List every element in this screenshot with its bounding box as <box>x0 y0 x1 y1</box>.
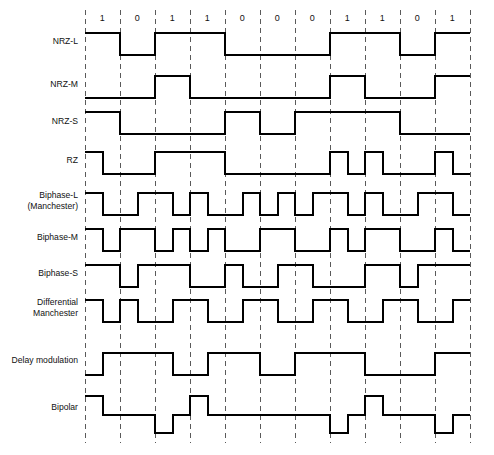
bit-sequence-labels: 10110001101 <box>100 13 455 23</box>
bit-value-label: 1 <box>205 13 210 23</box>
bit-value-label: 0 <box>135 13 140 23</box>
grid-lines-group <box>86 10 471 443</box>
bit-value-label: 1 <box>170 13 175 23</box>
row-label-rz: RZ <box>67 155 78 165</box>
bit-value-label: 1 <box>450 13 455 23</box>
bit-value-label: 1 <box>100 13 105 23</box>
waveform-nrz-m <box>85 76 470 98</box>
row-label-biphase-s: Biphase-S <box>38 268 78 278</box>
row-label-nrz-m: NRZ-M <box>50 79 78 89</box>
waveform-rz <box>85 152 470 174</box>
waveform-bipolar <box>85 396 470 433</box>
row-label-nrz-l: NRZ-L <box>53 36 79 46</box>
waveform-biphase-s <box>85 265 470 287</box>
bit-value-label: 0 <box>415 13 420 23</box>
row-label-delay-modulation: Delay modulation <box>12 355 79 365</box>
waveform-delay-modulation <box>85 353 470 375</box>
bit-value-label: 1 <box>345 13 350 23</box>
row-label-biphase-l-manchester: Biphase-L <box>39 190 78 200</box>
waveform-nrz-l <box>85 33 470 55</box>
waveforms-group <box>85 33 470 433</box>
row-label-differential-manchester: Manchester <box>33 308 78 318</box>
waveform-differential-manchester <box>85 300 470 322</box>
bit-value-label: 1 <box>380 13 385 23</box>
row-label-bipolar: Bipolar <box>51 402 78 412</box>
waveform-biphase-l-manchester <box>85 193 470 215</box>
encoding-waveform-chart: 10110001101 NRZ-LNRZ-MNRZ-SRZBiphase-L(M… <box>0 0 494 455</box>
bit-value-label: 0 <box>275 13 280 23</box>
row-label-nrz-s: NRZ-S <box>52 116 79 126</box>
waveform-biphase-m <box>85 229 470 251</box>
row-label-biphase-l-manchester: (Manchester) <box>27 201 78 211</box>
bit-value-label: 0 <box>310 13 315 23</box>
row-label-biphase-m: Biphase-M <box>37 232 78 242</box>
waveform-nrz-s <box>85 112 470 134</box>
row-label-differential-manchester: Differential <box>37 297 78 307</box>
bit-value-label: 0 <box>240 13 245 23</box>
waveform-row-labels: NRZ-LNRZ-MNRZ-SRZBiphase-L(Manchester)Bi… <box>12 36 79 412</box>
digital-encoding-figure: 10110001101 NRZ-LNRZ-MNRZ-SRZBiphase-L(M… <box>0 0 494 455</box>
